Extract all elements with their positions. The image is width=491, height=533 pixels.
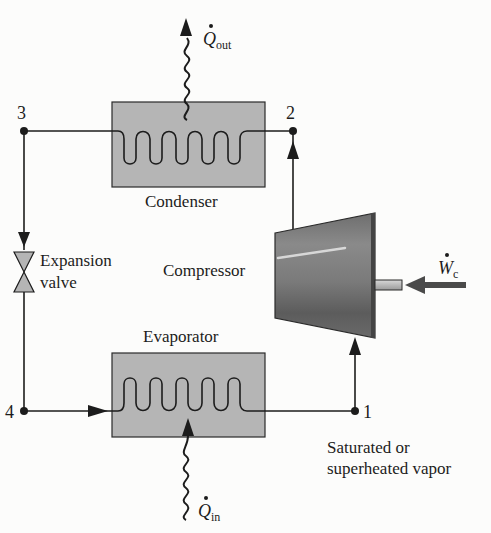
w-c-label: Wc [438, 259, 458, 280]
state-label-4: 4 [5, 403, 14, 421]
expansion-valve [14, 131, 34, 411]
q-in-label: Qin [198, 502, 220, 523]
q-out-label: Qout [203, 30, 231, 51]
heat-in-arrow [182, 418, 194, 520]
expansion-valve-label-line2: valve [40, 274, 77, 291]
flow-arrow-4 [88, 405, 108, 417]
condenser-label: Condenser [145, 193, 218, 210]
state1-note-line2: superheated vapor [327, 460, 451, 477]
q-in-subscript: in [211, 510, 220, 524]
line-1-to-compressor [349, 337, 361, 411]
q-out-symbol: Q [203, 29, 216, 49]
state-point-2 [289, 127, 297, 135]
refrigeration-cycle-diagram: 3 2 4 1 Condenser Evaporator Compressor … [0, 0, 491, 533]
w-c-subscript: c [453, 267, 458, 281]
w-c-symbol: W [438, 258, 453, 278]
compressor-label: Compressor [163, 262, 245, 279]
line-compressor-to-2 [287, 131, 299, 229]
q-in-symbol: Q [198, 501, 211, 521]
state-label-1: 1 [363, 403, 372, 421]
state-point-3 [20, 127, 28, 135]
q-out-subscript: out [216, 38, 231, 52]
state-label-2: 2 [286, 104, 295, 122]
evaporator-label: Evaporator [143, 328, 219, 345]
expansion-valve-label-line1: Expansion [40, 252, 112, 269]
condenser [24, 102, 293, 187]
state-label-3: 3 [17, 104, 26, 122]
state-point-4 [20, 407, 28, 415]
state-point-1 [351, 407, 359, 415]
compressor [275, 213, 402, 338]
state1-note-line1: Saturated or [327, 439, 410, 456]
